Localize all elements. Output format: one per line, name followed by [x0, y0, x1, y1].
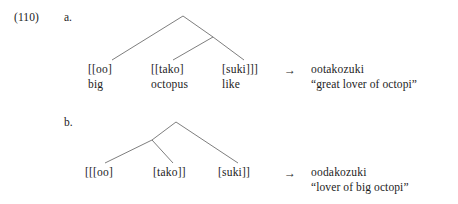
surface-form-b: oodakozuki	[311, 167, 367, 179]
leaf-label-b-2: [tako]]	[153, 167, 186, 179]
tree-b-branch-root-left	[152, 122, 176, 140]
translation-b: “lover of big octopi”	[311, 182, 409, 194]
tree-b-branch-root-right	[176, 122, 238, 163]
leaf-label-b-3: [suki]]	[218, 167, 250, 179]
tree-b-branch-node-left	[105, 140, 152, 163]
example-page: (110) a. [[oo] [[tako] [suki]]] big octo…	[0, 0, 458, 204]
tree-b-branch-node-right	[152, 140, 173, 163]
derivation-arrow-b: →	[284, 167, 296, 179]
leaf-label-b-1: [[[oo]	[85, 167, 113, 179]
